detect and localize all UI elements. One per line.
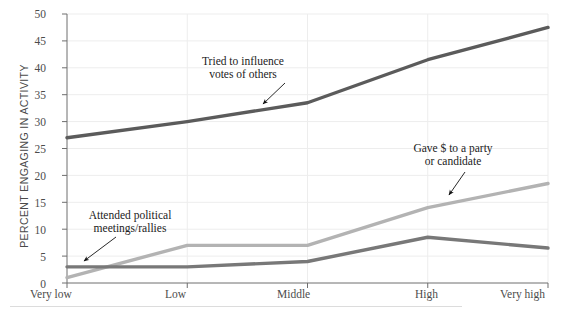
annotation-line: Tried to influence (173, 55, 313, 68)
annotation-gave-money: Gave $ to a party or candidate (383, 142, 523, 168)
x-tick-label-very-low: Very low (30, 288, 72, 300)
x-tick-label-high: High (415, 288, 438, 300)
annotation-line: meetings/rallies (60, 222, 200, 235)
annotation-influence-votes: Tried to influence votes of others (173, 55, 313, 81)
annotation-attended-meetings: Attended political meetings/rallies (60, 209, 200, 235)
annotation-line: Attended political (60, 209, 200, 222)
x-tick-label-low: Low (165, 288, 186, 300)
y-axis-ticks (62, 14, 67, 283)
x-tick-label-very-high: Very high (500, 288, 545, 300)
annotation-arrow (84, 237, 116, 261)
x-tick-label-middle: Middle (277, 288, 310, 300)
annotation-line: votes of others (173, 68, 313, 81)
chart-figure: PERCENT ENGAGING IN ACTIVITY 50 45 40 35… (0, 0, 563, 315)
annotation-line: or candidate (383, 155, 523, 168)
annotation-arrow (263, 83, 285, 104)
bottom-rule (10, 306, 462, 307)
annotation-line: Gave $ to a party (383, 142, 523, 155)
